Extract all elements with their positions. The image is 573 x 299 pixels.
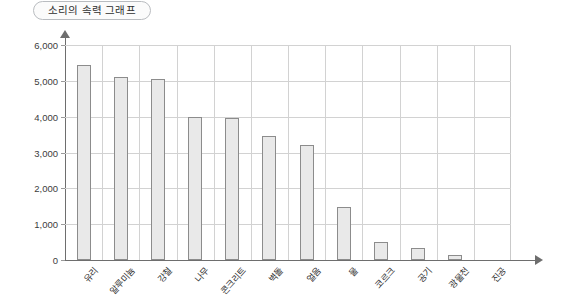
x-axis-category-label: 진공 bbox=[489, 264, 510, 285]
x-axis-category-label: 얼음 bbox=[303, 264, 324, 285]
gridline-vertical bbox=[251, 45, 252, 260]
y-axis-tick-label: 4,000 bbox=[8, 111, 58, 122]
bar bbox=[337, 207, 351, 260]
bar bbox=[225, 118, 239, 260]
plot-area bbox=[65, 45, 511, 260]
bar bbox=[374, 242, 388, 260]
x-axis-category-label: 광물천 bbox=[446, 264, 472, 291]
y-axis-tick-label: 1,000 bbox=[8, 219, 58, 230]
sound-speed-chart: 소리의 속력 그래프 6,0005,0004,0003,0002,0001,00… bbox=[0, 0, 573, 299]
y-axis-tick-label: 6,000 bbox=[8, 40, 58, 51]
bar bbox=[448, 255, 462, 260]
bar bbox=[262, 136, 276, 260]
gridline-vertical bbox=[288, 45, 289, 260]
x-axis-category-label: 코르크 bbox=[372, 264, 398, 291]
bar bbox=[188, 117, 202, 260]
y-axis-tick-label: 3,000 bbox=[8, 147, 58, 158]
x-axis-category-label: 알루미늄 bbox=[106, 264, 137, 297]
y-axis-tick-mark bbox=[61, 260, 65, 261]
bar bbox=[300, 145, 314, 260]
bar bbox=[114, 77, 128, 260]
y-axis-tick-label: 5,000 bbox=[8, 75, 58, 86]
gridline-vertical bbox=[400, 45, 401, 260]
x-axis-category-label: 물 bbox=[345, 264, 360, 279]
x-axis-category-label: 벽돌 bbox=[266, 264, 287, 285]
y-axis-tick-label: 0 bbox=[8, 255, 58, 266]
bar bbox=[151, 79, 165, 260]
x-axis-arrow-icon bbox=[535, 255, 543, 265]
gridline-vertical bbox=[214, 45, 215, 260]
bar bbox=[77, 65, 91, 260]
x-axis-category-label: 강철 bbox=[154, 264, 175, 285]
x-axis-line bbox=[65, 260, 537, 261]
x-axis-category-label: 나무 bbox=[191, 264, 212, 285]
gridline-vertical bbox=[325, 45, 326, 260]
gridline-vertical bbox=[102, 45, 103, 260]
gridline-vertical bbox=[177, 45, 178, 260]
chart-title-badge: 소리의 속력 그래프 bbox=[33, 1, 151, 20]
bar bbox=[411, 248, 425, 260]
x-axis-category-label: 콘크리트 bbox=[218, 264, 249, 297]
gridline-vertical bbox=[474, 45, 475, 260]
y-axis-tick-label: 2,000 bbox=[8, 183, 58, 194]
x-axis-category-label: 공기 bbox=[414, 264, 435, 285]
gridline-vertical bbox=[139, 45, 140, 260]
gridline-vertical bbox=[362, 45, 363, 260]
x-axis-category-label: 유리 bbox=[80, 264, 101, 285]
gridline-vertical bbox=[437, 45, 438, 260]
